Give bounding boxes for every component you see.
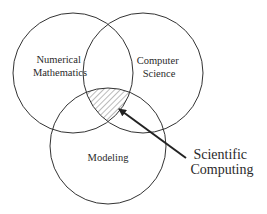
- label-computer-science: Computer Science: [137, 55, 182, 79]
- arrow-icon: [119, 109, 186, 158]
- intersection-hatch: [50, 88, 166, 204]
- label-numerical-mathematics: Numerical Mathematics: [33, 54, 87, 78]
- label-scientific-computing: Scientific Computing: [190, 147, 253, 177]
- venn-diagram: Numerical Mathematics Computer Science M…: [0, 0, 267, 214]
- label-modeling: Modeling: [88, 152, 130, 163]
